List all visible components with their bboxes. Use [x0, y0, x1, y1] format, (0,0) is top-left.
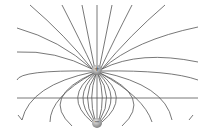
field-diagram: + − — [0, 0, 211, 140]
field-lines — [0, 0, 211, 140]
positive-sign: + — [92, 65, 102, 73]
negative-sign: − — [92, 118, 102, 126]
